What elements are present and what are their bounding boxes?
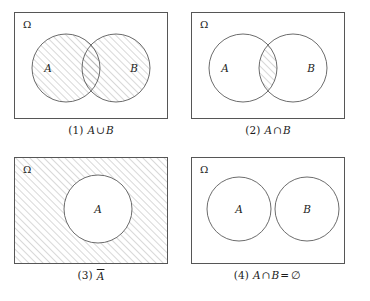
caption-disjoint: (4)A∩B=∅: [191, 269, 345, 281]
set-label-a: A: [234, 203, 243, 215]
caption-left-operand: A: [97, 269, 105, 282]
caption-operator: ∩: [261, 269, 272, 281]
panel-disjoint: Ω A B (4)A∩B=∅: [191, 157, 345, 264]
set-label-b: B: [129, 62, 138, 74]
universe-rect: [192, 158, 345, 264]
set-label-a: A: [93, 203, 102, 215]
panel-complement: Ω A (3)A: [14, 157, 168, 264]
universe-label: Ω: [200, 19, 208, 30]
caption-left-operand: A: [87, 124, 95, 136]
caption-left-operand: A: [264, 124, 272, 136]
set-label-a: A: [220, 62, 229, 74]
caption-index: (4): [234, 269, 249, 281]
caption-left-operand: A: [253, 269, 261, 281]
panel-intersection: Ω A B (2)A∩B: [191, 12, 345, 119]
universe-label: Ω: [23, 164, 31, 175]
caption-result-emptyset: ∅: [290, 269, 302, 281]
caption-union: (1)A∪B: [14, 124, 168, 136]
shaded-complement-region: [15, 158, 167, 263]
caption-intersection: (2)A∩B: [191, 124, 345, 136]
caption-equals: =: [279, 269, 290, 281]
caption-index: (2): [245, 124, 260, 136]
caption-complement: (3)A: [14, 269, 168, 281]
panel-complement-canvas: Ω A: [14, 157, 168, 264]
panel-union: Ω A B (1)A∪B: [14, 12, 168, 119]
caption-right-operand: B: [106, 124, 114, 136]
set-label-a: A: [43, 62, 52, 74]
caption-operator: ∩: [272, 124, 283, 136]
set-label-b: B: [306, 62, 315, 74]
panel-disjoint-canvas: Ω A B: [191, 157, 345, 264]
universe-label: Ω: [200, 164, 208, 175]
caption-operator: ∪: [95, 124, 106, 136]
caption-right-operand: B: [283, 124, 291, 136]
venn-diagram-figure: Ω A B (1)A∪B Ω A B: [0, 0, 370, 301]
caption-index: (3): [78, 269, 93, 281]
universe-label: Ω: [23, 19, 31, 30]
panel-intersection-canvas: Ω A B: [191, 12, 345, 119]
panel-union-canvas: Ω A B: [14, 12, 168, 119]
caption-index: (1): [68, 124, 83, 136]
set-label-b: B: [302, 203, 311, 215]
